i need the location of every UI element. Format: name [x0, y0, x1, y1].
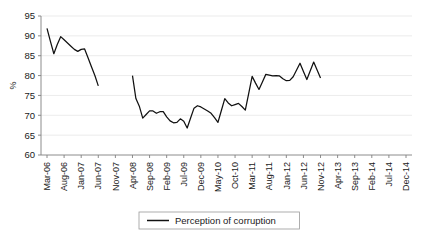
series-segment — [132, 62, 320, 128]
x-tick-label: Sep-08 — [145, 162, 155, 191]
x-tick-label: Nov-12 — [316, 162, 326, 191]
x-tick-label: Jul-14 — [384, 162, 394, 187]
y-tick-label: 90 — [24, 30, 35, 41]
y-tick-label: 65 — [24, 130, 35, 141]
x-tick-label: Sep-13 — [350, 162, 360, 191]
y-tick-label: 95 — [24, 10, 35, 21]
x-tick-label: Apr-13 — [333, 162, 343, 189]
chart-legend: Perception of corruption — [139, 212, 299, 229]
y-tick-label: 75 — [24, 90, 35, 101]
y-tick-label: 70 — [24, 110, 35, 121]
x-tick-label: May-10 — [213, 162, 223, 192]
data-series-perception-of-corruption — [47, 28, 321, 128]
x-tick-label: Apr-08 — [128, 162, 138, 189]
y-tick-label: 60 — [24, 149, 35, 160]
x-tick-label: Oct-10 — [230, 162, 240, 189]
x-tick-label: Dec-09 — [196, 162, 206, 191]
legend-label: Perception of corruption — [175, 215, 276, 226]
x-tick-label: Jan-07 — [76, 162, 86, 190]
x-tick-label: Feb-14 — [367, 162, 377, 191]
y-axis-title: % — [8, 81, 18, 89]
chart-container: 6065707580859095 Mar-06Aug-06Jan-07Jun-0… — [0, 0, 423, 239]
y-tick-label: 85 — [24, 50, 35, 61]
x-tick-label: Nov-07 — [111, 162, 121, 191]
gridlines — [41, 16, 412, 135]
x-tick-label: Aug-06 — [59, 162, 69, 191]
x-tick-label: Jun-12 — [299, 162, 309, 190]
series-segment — [47, 28, 98, 86]
x-tick-label: Feb-09 — [162, 162, 172, 191]
y-axis-ticks: 6065707580859095 — [24, 10, 41, 160]
x-tick-label: Mar-06 — [42, 162, 52, 191]
y-tick-label: 80 — [24, 70, 35, 81]
x-tick-label: Mar-11 — [247, 162, 257, 190]
x-tick-label: Aug-11 — [264, 162, 274, 190]
x-tick-label: Jul-09 — [179, 162, 189, 187]
x-tick-label: Dec-14 — [401, 162, 411, 191]
x-axis-ticks: Mar-06Aug-06Jan-07Jun-07Nov-07Apr-08Sep-… — [42, 155, 411, 192]
x-tick-label: Jun-07 — [93, 162, 103, 190]
line-chart: 6065707580859095 Mar-06Aug-06Jan-07Jun-0… — [0, 0, 423, 239]
x-tick-label: Jan-12 — [282, 162, 292, 190]
